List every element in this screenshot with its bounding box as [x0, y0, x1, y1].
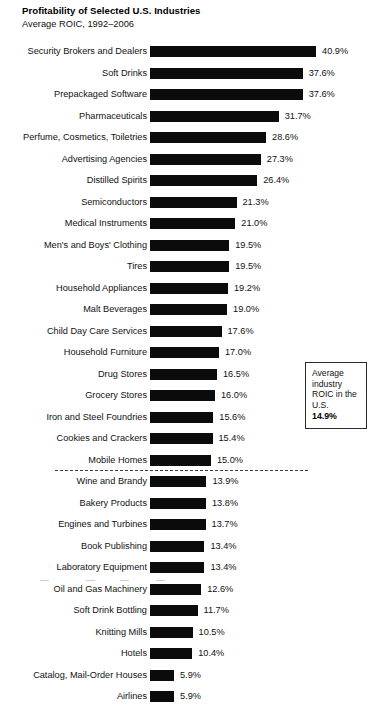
chart-row: Tires19.5% [0, 256, 378, 278]
category-label: Advertising Agencies [7, 149, 147, 171]
bar-value-label: 16.5% [223, 364, 249, 386]
bar-value-label: 13.4% [210, 557, 236, 579]
category-label: Household Appliances [7, 278, 147, 300]
chart-header: Profitability of Selected U.S. Industrie… [22, 5, 352, 30]
chart-row: Prepackaged Software37.6% [0, 84, 378, 106]
bar [150, 175, 257, 186]
bar-value-label: 21.3% [243, 192, 269, 214]
bar-value-label: 19.5% [235, 256, 261, 278]
bar [150, 433, 213, 444]
bar-value-label: 13.9% [212, 471, 238, 493]
clipped-axis-remnant [0, 578, 378, 583]
bar [150, 132, 266, 143]
bar [150, 304, 227, 315]
category-label: Perfume, Cosmetics, Toiletries [7, 127, 147, 149]
bar-track [150, 584, 201, 595]
bar-value-label: 5.9% [180, 686, 201, 706]
bar-track [150, 68, 303, 79]
category-label: Household Furniture [7, 342, 147, 364]
bar-value-label: 19.2% [234, 278, 260, 300]
callout-line-2: ROIC in the U.S. [312, 389, 360, 410]
chart-row: Soft Drinks37.6% [0, 63, 378, 85]
bar-value-label: 15.0% [217, 450, 243, 472]
bar [150, 584, 201, 595]
bar-track [150, 283, 228, 294]
bar [150, 111, 279, 122]
chart-row: Men's and Boys' Clothing19.5% [0, 235, 378, 257]
bar-value-label: 31.7% [285, 106, 311, 128]
bar-value-label: 16.0% [221, 385, 247, 407]
bar-value-label: 26.4% [263, 170, 289, 192]
bar-track [150, 304, 227, 315]
bar-value-label: 19.0% [233, 299, 259, 321]
bar [150, 691, 174, 702]
bar-track [150, 46, 316, 57]
chart-row: Perfume, Cosmetics, Toiletries28.6% [0, 127, 378, 149]
bar [150, 89, 303, 100]
chart-row: Soft Drink Bottling11.7% [0, 600, 378, 622]
bar-track [150, 369, 217, 380]
bar-track [150, 326, 222, 337]
category-label: Distilled Spirits [7, 170, 147, 192]
bar [150, 240, 229, 251]
bar [150, 390, 215, 401]
bar-value-label: 37.6% [309, 63, 335, 85]
bar [150, 218, 235, 229]
bar-value-label: 28.6% [272, 127, 298, 149]
bar-value-label: 17.6% [228, 321, 254, 343]
bar-value-label: 15.4% [219, 428, 245, 450]
category-label: Medical Instruments [7, 213, 147, 235]
category-label: Iron and Steel Foundries [7, 407, 147, 429]
bar-track [150, 498, 206, 509]
category-label: Airlines [7, 686, 147, 706]
chart-row: Distilled Spirits26.4% [0, 170, 378, 192]
bar-value-label: 10.4% [198, 643, 224, 665]
bar-value-label: 15.6% [219, 407, 245, 429]
bar [150, 197, 237, 208]
bar [150, 476, 206, 487]
chart-row: Security Brokers and Dealers40.9% [0, 41, 378, 63]
bar-value-label: 27.3% [267, 149, 293, 171]
bar-value-label: 19.5% [235, 235, 261, 257]
category-label: Semiconductors [7, 192, 147, 214]
chart-row: Engines and Turbines13.7% [0, 514, 378, 536]
chart-subtitle: Average ROIC, 1992–2006 [22, 18, 352, 30]
chart-row: Hotels10.4% [0, 643, 378, 665]
category-label: Security Brokers and Dealers [7, 41, 147, 63]
bar-track [150, 562, 204, 573]
chart-title: Profitability of Selected U.S. Industrie… [22, 5, 352, 17]
callout-line-1: Average industry [312, 368, 360, 389]
bar-track [150, 218, 235, 229]
bar-value-label: 10.5% [199, 622, 225, 644]
bar-track [150, 670, 174, 681]
bar-value-label: 37.6% [309, 84, 335, 106]
bar [150, 648, 192, 659]
bar [150, 562, 204, 573]
bar [150, 455, 211, 466]
bar-track [150, 627, 193, 638]
chart-row: Advertising Agencies27.3% [0, 149, 378, 171]
bar-track [150, 541, 204, 552]
bar-track [150, 476, 206, 487]
axis-tick-remnant [86, 580, 95, 581]
bar-track [150, 605, 198, 616]
bar [150, 68, 303, 79]
category-label: Mobile Homes [7, 450, 147, 472]
bar-track [150, 154, 261, 165]
chart-row: Semiconductors21.3% [0, 192, 378, 214]
callout-value: 14.9% [312, 411, 360, 422]
bar-track [150, 455, 211, 466]
average-roic-callout: Average industry ROIC in the U.S. 14.9% [305, 362, 367, 429]
chart-row: Child Day Care Services17.6% [0, 321, 378, 343]
chart-row: Airlines5.9% [0, 686, 378, 706]
bar-track [150, 390, 215, 401]
axis-tick-remnant [40, 580, 49, 581]
category-label: Soft Drinks [7, 63, 147, 85]
bar [150, 541, 204, 552]
chart-row: Malt Beverages19.0% [0, 299, 378, 321]
bar-chart-plot-area: Security Brokers and Dealers40.9%Soft Dr… [0, 41, 378, 561]
category-label: Engines and Turbines [7, 514, 147, 536]
bar-track [150, 433, 213, 444]
bar [150, 326, 222, 337]
chart-row: Household Furniture17.0% [0, 342, 378, 364]
